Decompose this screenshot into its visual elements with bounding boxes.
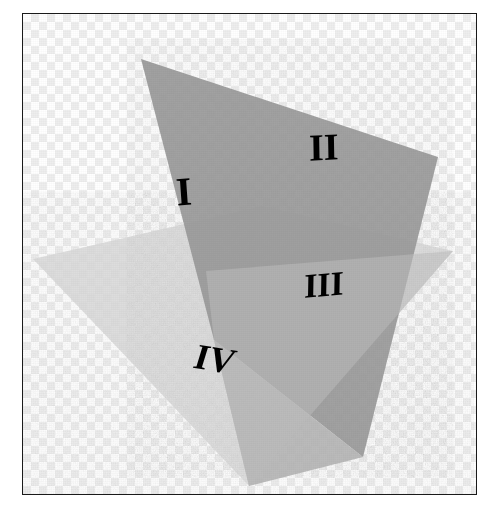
quadrant-label-ii: II — [309, 127, 339, 167]
geometry-scene: I II III IV — [23, 14, 476, 494]
figure-frame: I II III IV — [22, 13, 477, 495]
quadrant-label-iii: III — [304, 266, 344, 304]
planes-svg — [23, 14, 477, 495]
quadrant-label-i: I — [175, 172, 193, 213]
figure-root: I II III IV — [0, 0, 498, 521]
